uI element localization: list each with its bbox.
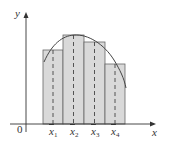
midpoint-label-2: x2 (70, 126, 78, 139)
rectangles (43, 35, 125, 124)
y-axis-label: y (15, 8, 20, 19)
x-axis-label: x (152, 127, 157, 138)
midpoint-label-1: x1 (49, 126, 57, 139)
y-axis-arrow-icon (24, 12, 29, 18)
rectangle-3 (84, 42, 105, 124)
origin-label: 0 (17, 124, 23, 135)
midpoint-label-3: x3 (91, 126, 99, 139)
midpoint-label-4: x4 (111, 126, 119, 139)
midpoint-rule-diagram (0, 0, 169, 145)
